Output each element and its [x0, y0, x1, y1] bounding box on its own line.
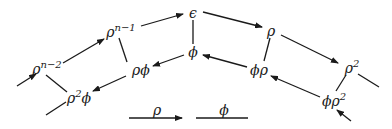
- phi-edge: [264, 38, 270, 61]
- node-rho: ρ: [267, 24, 275, 38]
- rho-edge: [93, 76, 126, 91]
- rho-edge: [203, 12, 262, 27]
- node-rho-n-minus-1: ρn−1: [106, 23, 135, 39]
- rho-edge: [203, 55, 247, 67]
- rho-edge: [141, 14, 183, 26]
- phi-edge: [336, 75, 346, 91]
- node-phi-rho-squared: ϕρ2: [322, 92, 346, 108]
- rho-edge: [271, 76, 320, 97]
- node-rho-phi: ρϕ: [132, 63, 150, 77]
- node-phi: ϕ: [188, 45, 198, 59]
- legend-rho-label: ρ: [153, 103, 161, 117]
- node-rho-squared: ρ2: [345, 59, 360, 75]
- phi-edge: [46, 75, 67, 92]
- node-rho-squared-phi: ρ2ϕ: [67, 89, 91, 105]
- phi-edge-outgoing: [46, 102, 66, 115]
- legend-phi-label: ϕ: [219, 103, 229, 117]
- rho-edge-incoming: [337, 110, 351, 121]
- node-identity: ϵ: [189, 6, 197, 20]
- rho-edge: [153, 55, 184, 66]
- phi-edge: [119, 38, 127, 62]
- node-rho-n-minus-2: ρn−2: [32, 60, 61, 76]
- rho-edge: [281, 35, 338, 63]
- node-phi-rho: ϕρ: [250, 63, 268, 77]
- rho-edge: [63, 39, 104, 63]
- phi-edge-outgoing: [358, 74, 379, 87]
